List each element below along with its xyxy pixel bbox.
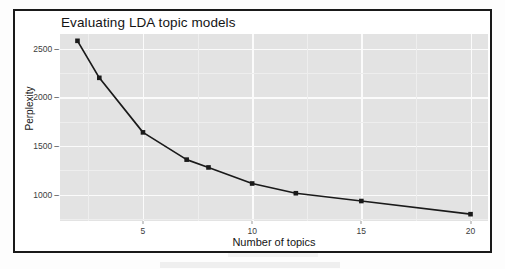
x-axis-label: Number of topics	[60, 236, 488, 248]
data-point	[184, 157, 189, 162]
perplexity-line	[77, 41, 470, 214]
perplexity-points	[75, 39, 473, 217]
data-point	[359, 199, 364, 204]
scan-artifact	[228, 253, 318, 257]
y-tick-label: 2500–	[25, 44, 59, 54]
x-tick-label: 20	[466, 226, 475, 236]
x-tick-label: 5	[141, 226, 146, 236]
plot-panel	[60, 34, 488, 221]
data-point	[206, 165, 211, 170]
x-tick-mark	[361, 221, 362, 224]
x-tick-mark	[470, 221, 471, 224]
data-point	[97, 76, 102, 81]
data-point	[75, 39, 80, 44]
x-tick-label: 10	[247, 226, 256, 236]
data-point	[141, 130, 146, 135]
series-layer	[60, 34, 488, 221]
y-axis-tick-group: 1000–1500–2000–2500–	[15, 34, 59, 221]
data-point	[468, 212, 473, 217]
x-tick-mark	[142, 221, 143, 224]
chart-title: Evaluating LDA topic models	[61, 15, 236, 30]
y-tick-label: 1000–	[25, 190, 59, 200]
screenshot-root: Evaluating LDA topic models Optimal numb…	[0, 0, 505, 269]
chart-figure-frame: Evaluating LDA topic models Optimal numb…	[13, 9, 492, 253]
y-tick-label: 1500–	[25, 141, 59, 151]
scan-artifact	[160, 262, 340, 268]
y-tick-label: 2000–	[25, 92, 59, 102]
x-tick-label: 15	[357, 226, 366, 236]
x-tick-mark	[252, 221, 253, 224]
data-point	[294, 191, 299, 196]
data-point	[250, 181, 255, 186]
